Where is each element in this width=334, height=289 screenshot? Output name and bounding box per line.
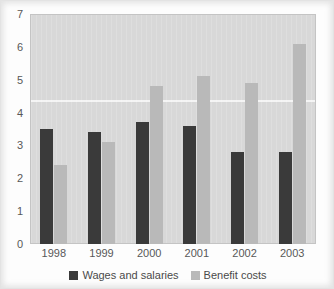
- bar-group: [268, 14, 316, 244]
- y-tick-label: 4: [17, 107, 23, 119]
- legend-item: Wages and salaries: [69, 269, 178, 281]
- bar: [245, 83, 258, 244]
- y-axis-tick-labels: 01234567: [1, 14, 28, 244]
- bar-group: [125, 14, 173, 244]
- y-tick-label: 1: [17, 205, 23, 217]
- bar-series-container: [30, 14, 316, 244]
- bar: [231, 152, 244, 244]
- y-tick-label: 0: [17, 238, 23, 250]
- bar: [136, 122, 149, 244]
- legend-swatch-icon: [191, 271, 200, 280]
- y-tick-label: 2: [17, 172, 23, 184]
- x-axis-tick-labels: 199819992000200120022003: [30, 247, 316, 263]
- chart-legend: Wages and salariesBenefit costs: [1, 269, 334, 281]
- y-tick-label: 5: [17, 74, 23, 86]
- bar: [102, 142, 115, 244]
- bar-group: [221, 14, 269, 244]
- bar-group: [30, 14, 78, 244]
- bar: [88, 132, 101, 244]
- bar-group: [78, 14, 126, 244]
- x-tick-label: 2002: [221, 247, 269, 263]
- x-tick-label: 2001: [173, 247, 221, 263]
- legend-swatch-icon: [69, 271, 78, 280]
- bar: [293, 44, 306, 244]
- x-tick-label: 2003: [268, 247, 316, 263]
- y-tick-label: 6: [17, 41, 23, 53]
- x-tick-label: 1999: [78, 247, 126, 263]
- bar: [197, 76, 210, 244]
- bar: [183, 126, 196, 244]
- bar: [150, 86, 163, 244]
- chart-figure: 01234567 199819992000200120022003 Wages …: [0, 0, 334, 289]
- legend-label: Benefit costs: [204, 269, 267, 281]
- bar: [279, 152, 292, 244]
- bar: [40, 129, 53, 244]
- x-tick-label: 1998: [30, 247, 78, 263]
- y-tick-label: 3: [17, 139, 23, 151]
- legend-label: Wages and salaries: [82, 269, 178, 281]
- x-tick-label: 2000: [125, 247, 173, 263]
- y-tick-label: 7: [17, 8, 23, 20]
- bar-group: [173, 14, 221, 244]
- bar: [54, 165, 67, 244]
- legend-item: Benefit costs: [191, 269, 267, 281]
